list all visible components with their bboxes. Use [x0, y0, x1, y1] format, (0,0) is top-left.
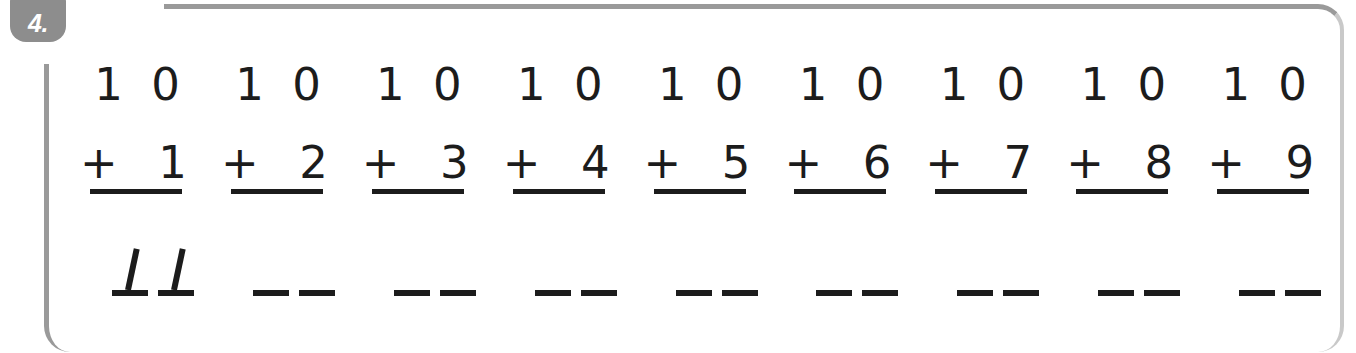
answer-blank[interactable]	[676, 290, 712, 296]
operator-line: + 1	[62, 140, 203, 202]
operator-line: + 8	[1048, 140, 1189, 202]
addition-problem: 1 0 + 8	[1048, 62, 1189, 312]
top-addend: 1 0	[485, 62, 626, 114]
bottom-addend: 6	[766, 140, 907, 185]
bottom-addend: 2	[203, 140, 344, 185]
answer-blanks[interactable]	[253, 290, 335, 296]
answer-blank[interactable]	[1285, 290, 1321, 296]
addition-problem: 1 0 + 1	[62, 62, 203, 312]
answer-blank[interactable]	[722, 290, 758, 296]
bottom-addend: 9	[1189, 140, 1330, 185]
sum-rule	[90, 189, 182, 194]
addition-problem: 1 0 + 5	[626, 62, 767, 312]
bottom-addend: 1	[62, 140, 203, 185]
handwritten-answer	[112, 244, 194, 290]
sum-rule	[1076, 189, 1168, 194]
hand-digit-stroke	[158, 246, 194, 290]
answer-blanks[interactable]	[1098, 290, 1180, 296]
answer-blanks[interactable]	[1239, 290, 1321, 296]
answer-blank[interactable]	[299, 290, 335, 296]
top-addend: 1 0	[1189, 62, 1330, 114]
answer-blank[interactable]	[816, 290, 852, 296]
answer-blank[interactable]	[957, 290, 993, 296]
answer-blank[interactable]	[581, 290, 617, 296]
answer-blanks[interactable]	[676, 290, 758, 296]
addition-problem: 1 0 + 4	[485, 62, 626, 312]
sum-rule	[1217, 189, 1309, 194]
answer-blanks[interactable]	[112, 290, 194, 296]
answer-blanks[interactable]	[816, 290, 898, 296]
addition-problem: 1 0 + 3	[344, 62, 485, 312]
addition-problem: 1 0 + 7	[907, 62, 1048, 312]
answer-blank[interactable]	[158, 290, 194, 296]
answer-blank[interactable]	[1098, 290, 1134, 296]
top-addend: 1 0	[344, 62, 485, 114]
top-addend: 1 0	[907, 62, 1048, 114]
exercise-number-badge: 4.	[10, 0, 66, 42]
operator-line: + 7	[907, 140, 1048, 202]
bottom-addend: 7	[907, 140, 1048, 185]
hand-digit-stroke	[112, 246, 148, 290]
sum-rule	[513, 189, 605, 194]
answer-blank[interactable]	[535, 290, 571, 296]
answer-blank[interactable]	[394, 290, 430, 296]
top-addend: 1 0	[62, 62, 203, 114]
bottom-addend: 5	[626, 140, 767, 185]
answer-blank[interactable]	[1003, 290, 1039, 296]
answer-blank[interactable]	[440, 290, 476, 296]
answer-blanks[interactable]	[394, 290, 476, 296]
sum-rule	[654, 189, 746, 194]
operator-line: + 5	[626, 140, 767, 202]
sum-rule	[794, 189, 886, 194]
top-addend: 1 0	[203, 62, 344, 114]
answer-area[interactable]	[485, 208, 626, 304]
sum-rule	[231, 189, 323, 194]
sum-rule	[372, 189, 464, 194]
answer-area[interactable]	[907, 208, 1048, 304]
answer-blank[interactable]	[862, 290, 898, 296]
answer-area[interactable]	[1048, 208, 1189, 304]
answer-area[interactable]	[62, 208, 203, 304]
worksheet-exercise: 4. 1 0 + 1 1 0	[0, 0, 1356, 353]
operator-line: + 6	[766, 140, 907, 202]
answer-area[interactable]	[203, 208, 344, 304]
bottom-addend: 4	[485, 140, 626, 185]
answer-blank[interactable]	[253, 290, 289, 296]
sum-rule	[935, 189, 1027, 194]
answer-blank[interactable]	[1239, 290, 1275, 296]
answer-blanks[interactable]	[957, 290, 1039, 296]
answer-blank[interactable]	[112, 290, 148, 296]
answer-area[interactable]	[344, 208, 485, 304]
top-addend: 1 0	[766, 62, 907, 114]
addition-problem: 1 0 + 6	[766, 62, 907, 312]
problems-row: 1 0 + 1 1 0 + 2	[62, 62, 1330, 312]
operator-line: + 2	[203, 140, 344, 202]
answer-area[interactable]	[626, 208, 767, 304]
addition-problem: 1 0 + 9	[1189, 62, 1330, 312]
operator-line: + 9	[1189, 140, 1330, 202]
operator-line: + 4	[485, 140, 626, 202]
answer-blanks[interactable]	[535, 290, 617, 296]
bottom-addend: 3	[344, 140, 485, 185]
answer-blank[interactable]	[1144, 290, 1180, 296]
addition-problem: 1 0 + 2	[203, 62, 344, 312]
top-addend: 1 0	[1048, 62, 1189, 114]
operator-line: + 3	[344, 140, 485, 202]
answer-area[interactable]	[1189, 208, 1330, 304]
top-addend: 1 0	[626, 62, 767, 114]
bottom-addend: 8	[1048, 140, 1189, 185]
answer-area[interactable]	[766, 208, 907, 304]
